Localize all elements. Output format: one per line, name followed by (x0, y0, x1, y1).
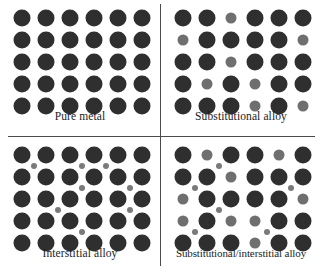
interstitial-atom (192, 185, 198, 191)
alloy-structure-figure: Pure metal Substitutional alloy Intersti… (0, 0, 323, 280)
panel-interstitial-alloy: Interstitial alloy (0, 137, 160, 273)
host-atom (14, 54, 31, 71)
substitutional-atom (202, 79, 213, 90)
substitutional-atom (202, 150, 213, 161)
host-atom (247, 191, 264, 208)
host-atom (295, 169, 312, 186)
interstitial-atom (192, 229, 198, 235)
host-atom (86, 169, 103, 186)
host-atom (38, 32, 55, 49)
panel-substitutional-alloy: Substitutional alloy (161, 0, 321, 136)
host-atom (14, 10, 31, 27)
host-atom (295, 147, 312, 164)
interstitial-atom (31, 163, 37, 169)
host-atom (134, 76, 151, 93)
host-atom (295, 10, 312, 27)
host-atom (134, 54, 151, 71)
substitutional-atom (250, 79, 261, 90)
host-atom (62, 54, 79, 71)
host-atom (38, 169, 55, 186)
host-atom (271, 10, 288, 27)
host-atom (223, 191, 240, 208)
caption-substitutional-alloy: Substitutional alloy (161, 110, 321, 122)
host-atom (175, 76, 192, 93)
lattice-interstitial-alloy (0, 137, 160, 249)
host-atom (86, 147, 103, 164)
lattice-substitutional-alloy (161, 0, 321, 112)
interstitial-atom (264, 229, 270, 235)
host-atom (14, 147, 31, 164)
host-atom (247, 54, 264, 71)
host-atom (199, 191, 216, 208)
substitutional-atom (298, 194, 309, 205)
host-atom (14, 191, 31, 208)
interstitial-atom (103, 163, 109, 169)
host-atom (175, 169, 192, 186)
host-atom (199, 169, 216, 186)
lattice-pure-metal (0, 0, 160, 112)
host-atom (199, 54, 216, 71)
host-atom (134, 10, 151, 27)
host-atom (175, 54, 192, 71)
host-atom (110, 76, 127, 93)
host-atom (223, 32, 240, 49)
host-atom (247, 10, 264, 27)
host-atom (110, 147, 127, 164)
interstitial-atom (79, 163, 85, 169)
host-atom (271, 191, 288, 208)
interstitial-atom (216, 207, 222, 213)
host-atom (199, 10, 216, 27)
host-atom (134, 147, 151, 164)
substitutional-atom (250, 216, 261, 227)
host-atom (134, 213, 151, 230)
host-atom (175, 10, 192, 27)
host-atom (110, 169, 127, 186)
host-atom (110, 213, 127, 230)
host-atom (38, 191, 55, 208)
interstitial-atom (55, 207, 61, 213)
host-atom (271, 213, 288, 230)
host-atom (295, 213, 312, 230)
host-atom (62, 191, 79, 208)
host-atom (223, 147, 240, 164)
host-atom (247, 147, 264, 164)
substitutional-atom (226, 216, 237, 227)
host-atom (86, 54, 103, 71)
host-atom (86, 191, 103, 208)
host-atom (295, 54, 312, 71)
substitutional-atom (178, 35, 189, 46)
host-atom (110, 191, 127, 208)
host-atom (134, 32, 151, 49)
interstitial-atom (127, 207, 133, 213)
host-atom (62, 76, 79, 93)
host-atom (14, 32, 31, 49)
substitutional-atom (178, 194, 189, 205)
host-atom (295, 76, 312, 93)
host-atom (38, 213, 55, 230)
substitutional-atom (226, 172, 237, 183)
host-atom (247, 32, 264, 49)
panel-substitutional-interstitial-alloy: Substitutional/interstitial alloy (161, 137, 321, 273)
host-atom (38, 10, 55, 27)
substitutional-atom (226, 13, 237, 24)
caption-substitutional-interstitial-alloy: Substitutional/interstitial alloy (161, 247, 321, 259)
host-atom (247, 169, 264, 186)
host-atom (110, 32, 127, 49)
host-atom (110, 10, 127, 27)
host-atom (134, 169, 151, 186)
host-atom (86, 213, 103, 230)
host-atom (14, 169, 31, 186)
host-atom (62, 147, 79, 164)
host-atom (271, 169, 288, 186)
host-atom (175, 147, 192, 164)
interstitial-atom (288, 185, 294, 191)
host-atom (86, 32, 103, 49)
host-atom (14, 76, 31, 93)
substitutional-atom (274, 150, 285, 161)
lattice-substitutional-interstitial-alloy (161, 137, 321, 249)
host-atom (199, 32, 216, 49)
substitutional-atom (226, 57, 237, 68)
host-atom (62, 10, 79, 27)
host-atom (271, 54, 288, 71)
host-atom (271, 76, 288, 93)
